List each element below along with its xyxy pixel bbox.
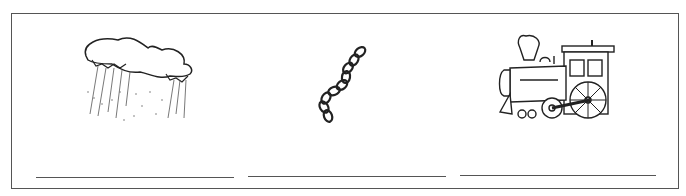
answer-line-2[interactable]: [248, 176, 446, 177]
steam-train-picture: steam-train: [494, 30, 619, 122]
rain-cloud-icon: [78, 34, 203, 124]
answer-line-3[interactable]: [460, 175, 656, 176]
chain-icon: [314, 44, 374, 124]
steam-train-icon: [494, 30, 619, 122]
rain-cloud-picture: rain-cloud: [78, 34, 203, 124]
chain-picture: chain: [314, 44, 374, 124]
answer-line-1[interactable]: [36, 177, 234, 178]
